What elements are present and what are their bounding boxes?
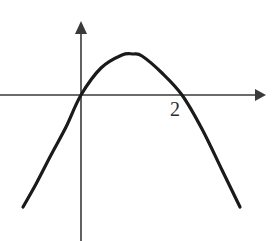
- parabola-curve: [23, 54, 240, 207]
- x-intercept-label-2: 2: [170, 99, 180, 119]
- graph-canvas: [0, 0, 272, 241]
- parabola-figure: 2: [0, 0, 272, 241]
- y-axis-arrow-icon: [75, 21, 87, 34]
- x-axis-arrow-icon: [255, 89, 266, 101]
